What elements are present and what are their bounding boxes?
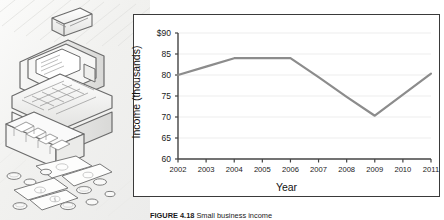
figure-caption-text: Small business income — [196, 211, 272, 220]
figure-page: Income (thousands) 606570758085$90 20022… — [0, 0, 444, 220]
chart-panel: Income (thousands) 606570758085$90 20022… — [133, 14, 440, 197]
income-line-series — [178, 58, 431, 116]
x-axis-title: Year — [134, 181, 439, 193]
gridlines — [178, 33, 431, 138]
figure-caption-label: FIGURE 4.18 — [150, 211, 194, 220]
axis-tick-marks — [175, 33, 431, 163]
plot-area-wrapper: Income (thousands) 606570758085$90 20022… — [134, 15, 439, 196]
cash-register-drawing — [0, 0, 150, 220]
figure-caption: FIGURE 4.18 Small business income — [150, 211, 440, 220]
line-chart-svg — [134, 15, 441, 198]
cash-register-illustration — [0, 0, 150, 220]
